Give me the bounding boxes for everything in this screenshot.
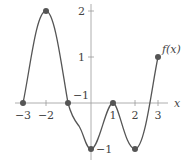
x-tick-label: 2	[132, 109, 139, 122]
x-tick-label: −2	[38, 109, 54, 122]
x-tick-label: 1	[110, 109, 117, 122]
function-curve	[23, 11, 158, 149]
y-tick-label: 2	[78, 5, 85, 18]
x-tick-label: −3	[15, 109, 31, 122]
data-points	[20, 8, 161, 152]
x-axis-label: x	[174, 97, 181, 110]
function-graph: −3 −2 −1 1 2 3 2 1 −1 x f(x)	[0, 0, 194, 165]
x-tick-label: 3	[155, 109, 162, 122]
function-label: f(x)	[161, 43, 181, 56]
y-tick-label: −1	[96, 143, 112, 156]
x-tick-label: −1	[73, 89, 89, 102]
y-tick-label: 1	[78, 51, 85, 64]
